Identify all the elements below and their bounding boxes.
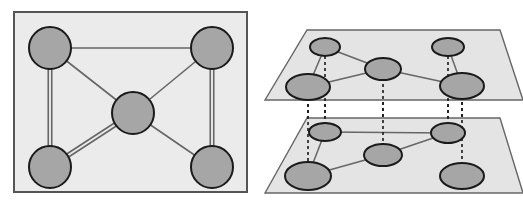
graph-node[interactable] xyxy=(112,92,154,134)
lower-layer-node[interactable] xyxy=(364,144,402,166)
lower-layer-node[interactable] xyxy=(309,123,341,141)
left-panel-group xyxy=(14,12,247,192)
upper-layer-node[interactable] xyxy=(432,38,464,56)
figure-root xyxy=(0,0,523,208)
diagram-canvas xyxy=(0,0,523,208)
graph-node[interactable] xyxy=(29,146,71,188)
layer-edge xyxy=(325,132,448,133)
upper-layer-node[interactable] xyxy=(440,73,484,99)
graph-node[interactable] xyxy=(29,27,71,69)
upper-layer-node[interactable] xyxy=(286,74,330,100)
lower-layer-node[interactable] xyxy=(440,163,484,189)
lower-layer-node[interactable] xyxy=(285,162,331,190)
upper-layer-node[interactable] xyxy=(365,58,401,80)
upper-layer-node[interactable] xyxy=(310,38,340,56)
graph-node[interactable] xyxy=(191,27,233,69)
right-panel-group xyxy=(265,30,523,193)
lower-layer-node[interactable] xyxy=(431,123,465,143)
graph-node[interactable] xyxy=(191,146,233,188)
